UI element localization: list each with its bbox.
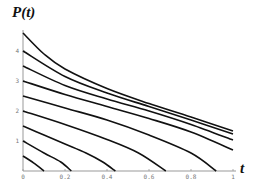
solution-curve xyxy=(23,111,166,171)
x-tick-label: 0.6 xyxy=(144,173,155,180)
solution-curve xyxy=(23,96,216,171)
solution-curve xyxy=(23,156,44,171)
y-tick-label: 4 xyxy=(15,47,19,54)
line-chart: 00.20.40.60.811234 xyxy=(0,0,257,193)
x-tick-label: 0 xyxy=(21,173,25,180)
x-tick-label: 0.2 xyxy=(60,173,71,180)
x-tick-label: 0.4 xyxy=(102,173,113,180)
solution-curve xyxy=(23,141,71,171)
y-tick-label: 1 xyxy=(15,137,19,144)
y-tick-label: 2 xyxy=(15,107,19,114)
x-tick-label: 0.8 xyxy=(186,173,197,180)
x-tick-label: 1 xyxy=(231,173,235,180)
curves xyxy=(23,33,233,171)
solution-curve xyxy=(23,33,233,131)
y-tick-label: 3 xyxy=(15,77,19,84)
solution-curve xyxy=(23,66,233,140)
